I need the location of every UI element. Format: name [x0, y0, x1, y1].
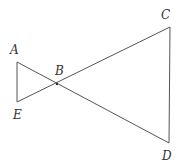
segment-EC — [17, 27, 170, 102]
segment-AD — [17, 62, 169, 143]
point-B-marker — [56, 83, 58, 85]
label-D: D — [161, 149, 172, 163]
segment-CD — [169, 27, 170, 143]
label-C: C — [161, 8, 170, 22]
label-A: A — [9, 43, 19, 57]
triangle-diagram: A B E C D — [0, 0, 180, 168]
label-E: E — [12, 108, 22, 122]
label-B: B — [54, 64, 64, 78]
